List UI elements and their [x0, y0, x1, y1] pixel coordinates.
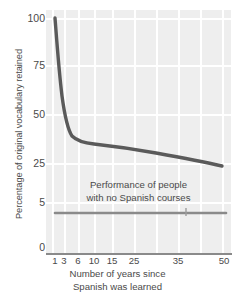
x-tick-label: 6	[75, 255, 80, 266]
x-axis-title-line-2: Spanish was learned	[0, 281, 235, 294]
y-tick-label: 75	[5, 59, 45, 71]
y-tick-label: 5	[5, 196, 45, 208]
y-tick-label: 0	[5, 241, 45, 253]
x-tick-label: 15	[107, 255, 118, 266]
x-tick-label: 35	[173, 255, 184, 266]
y-tick-label: 100	[5, 12, 45, 24]
x-axis-title-line-1: Number of years since	[0, 268, 235, 281]
y-tick-label: 25	[5, 157, 45, 169]
vocabulary-retention-curve	[55, 18, 222, 166]
y-axis-title: Percentage of original vocabulary retain…	[14, 9, 24, 259]
x-tick-label: 1	[52, 255, 57, 266]
y-tick-label: 50	[5, 108, 45, 120]
x-tick-label: 10	[89, 255, 100, 266]
x-tick-label: 3	[61, 255, 66, 266]
x-axis-title: Number of years since Spanish was learne…	[0, 268, 235, 293]
plot-area	[46, 10, 231, 253]
annotation-line-1: Performance of people	[46, 179, 231, 192]
annotation-line-2: with no Spanish courses	[46, 192, 231, 205]
x-tick-label: 25	[129, 255, 140, 266]
retention-chart: Percentage of original vocabulary retain…	[0, 0, 235, 295]
annotation-text: Performance of people with no Spanish co…	[46, 179, 231, 204]
x-tick-label: 50	[219, 255, 230, 266]
series-layer	[46, 10, 231, 253]
